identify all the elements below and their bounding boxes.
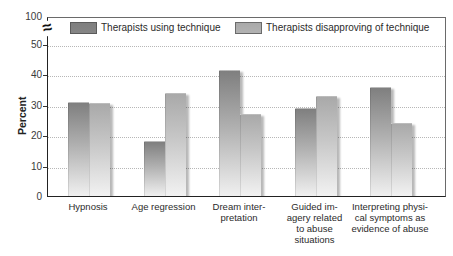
y-tick-label: 40 — [12, 69, 42, 81]
gridline — [48, 46, 445, 47]
bar-disapproving-technique — [165, 93, 186, 196]
bar-using-technique — [370, 87, 391, 196]
legend-label-using-technique: Therapists using technique — [101, 22, 221, 34]
bar-disapproving-technique — [240, 114, 261, 196]
bar-using-technique — [295, 108, 316, 196]
y-tick-mark — [43, 45, 47, 46]
bar-disapproving-technique — [391, 123, 412, 196]
y-tick-mark — [43, 75, 47, 76]
bar-disapproving-technique — [89, 103, 110, 196]
legend-swatch-disapproving — [235, 22, 262, 34]
y-tick-label: 30 — [12, 100, 42, 112]
bar-using-technique — [219, 70, 240, 196]
y-tick-label: 10 — [12, 161, 42, 173]
bar-disapproving-technique — [316, 96, 337, 196]
y-tick-mark — [43, 136, 47, 137]
y-tick-mark — [43, 106, 47, 107]
category-label: Interpreting physi- cal symptoms as evid… — [340, 201, 440, 234]
gridline — [48, 76, 445, 77]
plot-area — [47, 17, 446, 197]
bar-chart-figure: Percent ≈ Therapists using technique The… — [0, 0, 453, 256]
bar-using-technique — [144, 141, 165, 196]
y-tick-mark — [43, 167, 47, 168]
y-tick-label: 50 — [12, 39, 42, 51]
legend-swatch-using-technique — [70, 22, 97, 34]
bar-using-technique — [68, 102, 89, 196]
y-tick-label: 20 — [12, 130, 42, 142]
legend-label-disapproving: Therapists disapproving of technique — [266, 22, 429, 34]
y-tick-label-top: 100 — [12, 11, 42, 23]
